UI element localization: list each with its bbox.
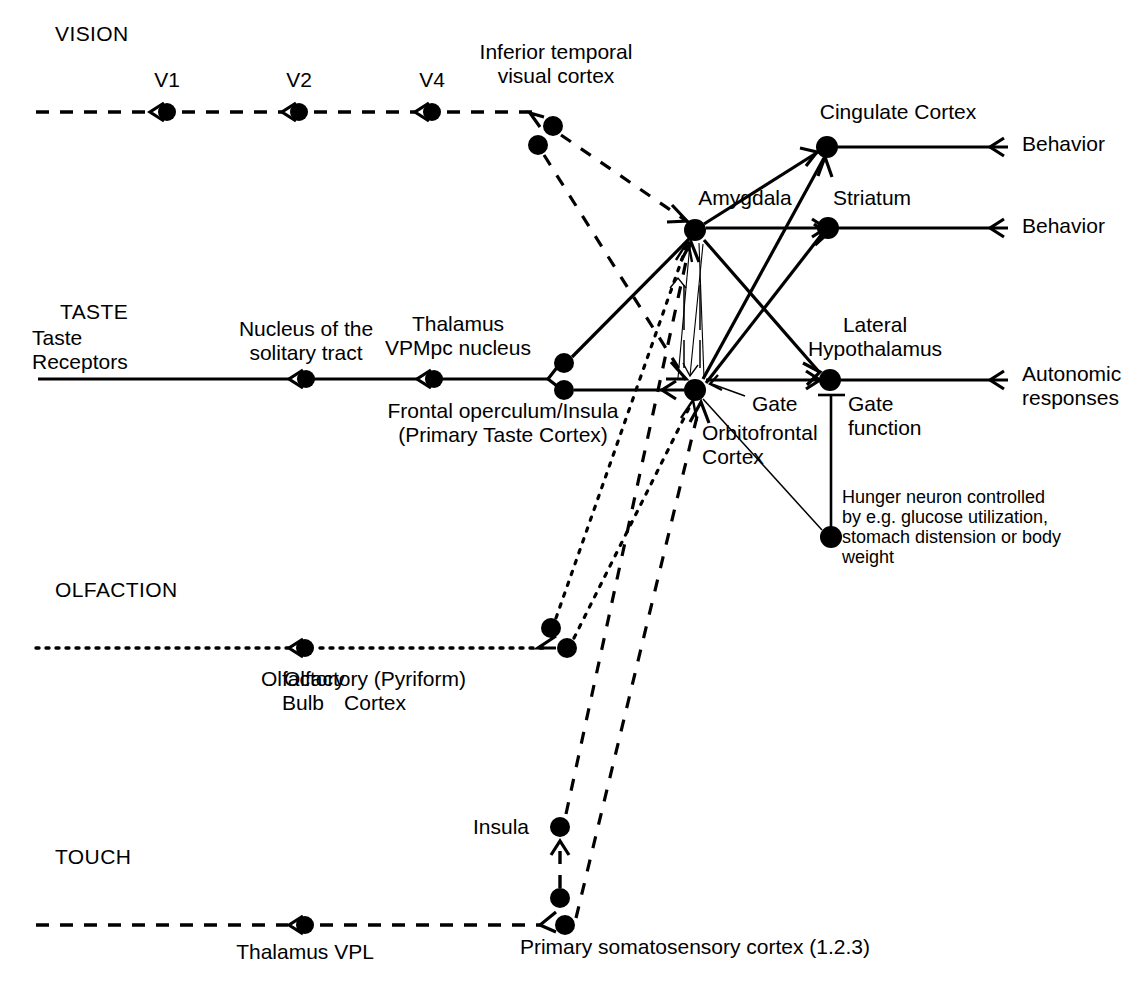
node-orbitofrontal — [684, 379, 706, 401]
node-lateral-hypothalamus — [819, 369, 841, 391]
label-cingulate-cortex: Cingulate Cortex — [788, 100, 1008, 124]
label-lateral-hypothalamus: Lateral Hypothalamus — [780, 313, 970, 360]
node-it-upper — [543, 116, 563, 136]
label-insula: Insula — [473, 815, 529, 839]
label-taste-receptors: Taste Receptors — [32, 326, 162, 373]
node-thalamus-vpmpc — [425, 370, 443, 388]
section-label-olfaction: OLFACTION — [55, 578, 178, 602]
node-striatum — [817, 217, 839, 239]
label-inferior-temporal-visual-cortex: Inferior temporal visual cortex — [446, 40, 666, 87]
node-insula — [550, 817, 570, 837]
edge-it-amygdala — [561, 135, 688, 222]
label-v1: V1 — [137, 68, 197, 92]
edge-ofc-striatum — [706, 234, 822, 383]
label-gate-function: Gate function — [848, 392, 922, 439]
label-thalamus-vpl: Thalamus VPL — [200, 940, 410, 964]
node-it-lower — [528, 135, 548, 155]
label-hunger-neuron: Hunger neuron controlled by e.g. glucose… — [842, 487, 1092, 568]
label-behavior-1: Behavior — [1022, 132, 1105, 156]
label-v2: V2 — [269, 68, 329, 92]
arrowhead-it — [530, 113, 544, 127]
node-v1 — [158, 103, 176, 121]
edge-operculum-amygdala — [572, 238, 690, 357]
label-thalamus-vpmpc: Thalamus VPMpc nucleus — [348, 312, 568, 359]
section-label-touch: TOUCH — [55, 845, 131, 869]
node-pyriform-lower — [557, 638, 577, 658]
label-frontal-operculum-insula: Frontal operculum/Insula (Primary Taste … — [338, 399, 668, 446]
label-orbitofrontal-cortex: Orbitofrontal Cortex — [702, 421, 818, 468]
label-striatum: Striatum — [802, 186, 942, 210]
label-primary-somatosensory-cortex: Primary somatosensory cortex (1.2.3) — [445, 935, 945, 959]
label-gate: Gate — [752, 392, 798, 416]
node-somato-upper — [550, 888, 570, 908]
node-olfactory-bulb — [296, 639, 314, 657]
node-somato-lower — [555, 915, 575, 935]
node-pyriform-upper — [541, 618, 561, 638]
node-v2 — [290, 103, 308, 121]
node-operculum-lower — [554, 380, 574, 400]
arrowhead-pyriform — [538, 636, 556, 648]
label-behavior-2: Behavior — [1022, 214, 1105, 238]
label-olfactory-pyriform-cortex: Olfactory (Pyriform) Cortex — [230, 667, 520, 714]
node-v4 — [423, 103, 441, 121]
section-label-taste: TASTE — [60, 300, 128, 324]
label-autonomic-responses: Autonomic responses — [1022, 362, 1126, 409]
node-amygdala — [684, 219, 706, 241]
section-label-vision: VISION — [55, 22, 129, 46]
label-amygdala: Amygdala — [670, 186, 820, 210]
edge-gate-pointer — [712, 384, 745, 396]
node-cingulate — [816, 136, 838, 158]
node-hunger-neuron — [820, 526, 842, 548]
node-nucleus-solitary — [297, 370, 315, 388]
edge-insula-amygdala — [566, 243, 690, 814]
node-thalamus-vpl — [296, 916, 314, 934]
arrowhead-somatosensory — [540, 912, 556, 932]
